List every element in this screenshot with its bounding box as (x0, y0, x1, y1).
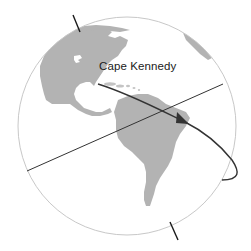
globe-diagram: Cape Kennedy (0, 0, 251, 251)
launch-site-label: Cape Kennedy (99, 60, 176, 72)
globe-svg (0, 0, 251, 251)
